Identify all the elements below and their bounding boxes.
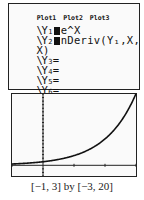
- selected-equals-icon[interactable]: [54, 37, 60, 45]
- graph-plot: [12, 94, 136, 176]
- y-equals-editor-screen: Plot1Plot2Plot3 \Y1e^X \Y2nDeriv(Y₁,X, X…: [8, 3, 140, 90]
- window-caption: [−1, 3] by [−3, 20]: [0, 180, 144, 192]
- function-expression[interactable]: nDeriv(Y₁,X,: [61, 34, 140, 46]
- plot3-label[interactable]: Plot3: [90, 14, 110, 22]
- graph-screen: [11, 93, 137, 177]
- exp-curve: [12, 94, 136, 164]
